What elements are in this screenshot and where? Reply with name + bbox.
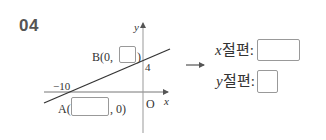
x-intercept-input[interactable]: [257, 39, 300, 61]
y-intercept-input[interactable]: [257, 70, 278, 93]
x-intercept-label: x절편:: [215, 43, 254, 58]
y-intercept-tick: 4: [145, 62, 151, 73]
point-a-suffix: , 0): [110, 103, 126, 115]
x-intercept-tick: −10: [53, 81, 70, 92]
point-b-suffix: ): [137, 51, 141, 63]
origin-label: O: [146, 98, 155, 110]
point-a-prefix: A(: [58, 103, 71, 115]
point-a-blank[interactable]: [71, 97, 109, 116]
point-b-blank[interactable]: [119, 46, 136, 63]
point-b-prefix: B(0,: [92, 51, 113, 63]
y-intercept-label: y절편:: [216, 74, 255, 89]
x-axis-label: x: [164, 96, 169, 107]
y-axis-label: y: [134, 22, 139, 33]
